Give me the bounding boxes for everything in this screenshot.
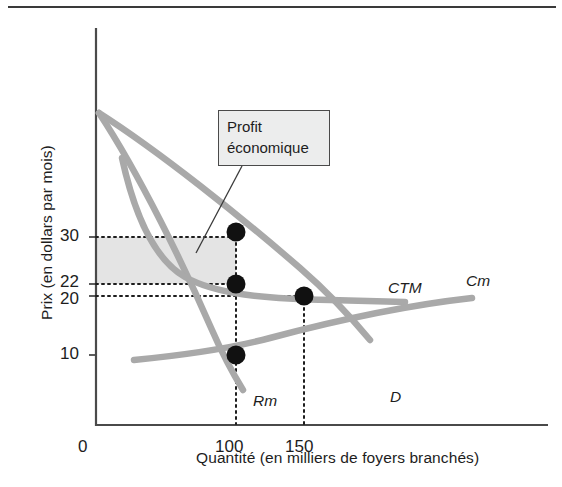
y-tick-label-20: 20 [60, 289, 79, 309]
marker-price-30-q-100 [227, 223, 246, 242]
y-tick-label-10: 10 [60, 344, 79, 364]
callout-line-1: Profit [227, 116, 329, 137]
marker-price-10-q-100 [227, 346, 246, 365]
curve-label-rm: Rm [253, 392, 277, 410]
profit-callout-box: Profit économique [218, 110, 330, 166]
curve-label-ctm: CTM [388, 279, 422, 297]
chart-canvas [0, 0, 562, 487]
marker-price-20-q-150 [295, 287, 314, 306]
y-axis-title: Prix (en dollars par mois) [38, 145, 56, 320]
economics-monopoly-chart: Profit économique 30 22 20 10 0 100 150 … [0, 0, 562, 487]
curve-label-cm: Cm [466, 272, 490, 290]
callout-line-2: économique [227, 137, 329, 158]
y-tick-label-30: 30 [60, 226, 79, 246]
marker-price-22-q-100 [227, 275, 246, 294]
x-axis-title: Quantité (en milliers de foyers branchés… [196, 449, 479, 467]
curve-label-d: D [390, 388, 401, 406]
x-tick-label-0: 0 [78, 437, 87, 457]
